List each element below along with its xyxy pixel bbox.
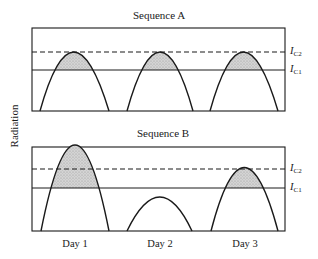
y-axis-label: Radiation — [8, 105, 20, 148]
ic2-label-b: IC2 — [290, 162, 302, 175]
sequence-a-title: Sequence A — [99, 9, 219, 21]
sequence-a-panel — [32, 28, 285, 111]
x-label-day-1: Day 1 — [50, 238, 100, 249]
ic1-subscript-a: C1 — [294, 68, 302, 76]
sequence-b-title: Sequence B — [103, 127, 223, 139]
shaded-regions-a — [40, 52, 278, 111]
x-label-day-3: Day 3 — [220, 238, 270, 249]
ic2-subscript-b: C2 — [294, 167, 302, 175]
ic1-label-a: IC1 — [290, 63, 302, 76]
ic1-label-b: IC1 — [290, 181, 302, 194]
ic2-label-a: IC2 — [290, 45, 302, 58]
ic2-subscript-a: C2 — [294, 50, 302, 58]
sequence-b-panel — [32, 145, 285, 231]
x-label-day-2: Day 2 — [135, 238, 185, 249]
ic1-subscript-b: C1 — [294, 186, 302, 194]
